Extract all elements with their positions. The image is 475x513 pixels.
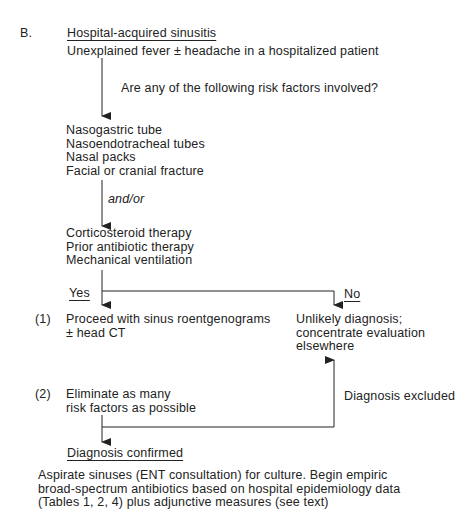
risk-group-1: Nasogastric tube Nasoendotracheal tubes … xyxy=(66,124,205,178)
step1-line: ± head CT xyxy=(66,327,270,341)
no-outcome-line: Unlikely diagnosis; xyxy=(296,313,425,327)
connector-label: and/or xyxy=(108,193,144,207)
conclusion-text: Aspirate sinuses (ENT consultation) for … xyxy=(38,469,400,510)
no-outcome-text: Unlikely diagnosis; concentrate evaluati… xyxy=(296,313,425,354)
risk-factor: Nasoendotracheal tubes xyxy=(66,138,205,152)
yes-label: Yes xyxy=(69,287,90,301)
confirmed-label: Diagnosis confirmed xyxy=(67,447,183,461)
conclusion-line: Aspirate sinuses (ENT consultation) for … xyxy=(38,469,400,483)
conclusion-line: broad-spectrum antibiotics based on hosp… xyxy=(38,483,400,497)
step2-line: Eliminate as many xyxy=(66,388,196,402)
step2-number: (2) xyxy=(35,388,51,402)
risk-group-2: Corticosteroid therapy Prior antibiotic … xyxy=(66,227,194,268)
no-outcome-line: elsewhere xyxy=(296,340,425,354)
risk-factor: Prior antibiotic therapy xyxy=(66,241,194,255)
risk-factor: Corticosteroid therapy xyxy=(66,227,194,241)
no-outcome-line: concentrate evaluation xyxy=(296,327,425,341)
risk-factor: Nasogastric tube xyxy=(66,124,205,138)
risk-question: Are any of the following risk factors in… xyxy=(121,82,378,96)
step1-number: (1) xyxy=(35,313,51,327)
presentation-text: Unexplained fever ± headache in a hospit… xyxy=(67,45,379,59)
step2-text: Eliminate as many risk factors as possib… xyxy=(66,388,196,415)
step1-text: Proceed with sinus roentgenograms ± head… xyxy=(66,313,270,340)
section-label: B. xyxy=(20,27,32,41)
risk-factor: Mechanical ventilation xyxy=(66,254,194,268)
risk-factor: Facial or cranial fracture xyxy=(66,165,205,179)
excluded-label: Diagnosis excluded xyxy=(344,390,455,404)
no-label: No xyxy=(344,288,360,302)
step1-line: Proceed with sinus roentgenograms xyxy=(66,313,270,327)
risk-factor: Nasal packs xyxy=(66,151,205,165)
conclusion-line: (Tables 1, 2, 4) plus adjunctive measure… xyxy=(38,496,400,510)
diagram-title: Hospital-acquired sinusitis xyxy=(67,27,216,41)
step2-line: risk factors as possible xyxy=(66,402,196,416)
